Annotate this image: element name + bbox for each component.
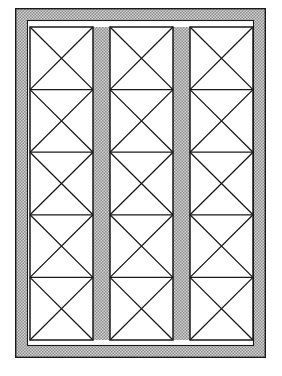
bay-3 — [190, 27, 253, 340]
bay-1 — [30, 27, 93, 340]
panel-frame-diagram: Cross-braced three-bay panel frame (elev… — [0, 0, 282, 376]
figure-canvas: Cross-braced three-bay panel frame (elev… — [0, 0, 282, 376]
gap-1-hatch — [93, 27, 110, 340]
gap-2-hatch — [173, 27, 190, 340]
bay-2 — [110, 27, 173, 340]
